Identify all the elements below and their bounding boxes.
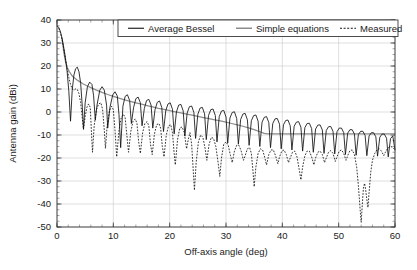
y-tick-label: 30 bbox=[40, 37, 51, 48]
y-tick-label: -30 bbox=[37, 175, 51, 186]
legend-label-average-bessel: Average Bessel bbox=[148, 23, 214, 34]
x-tick-label: 10 bbox=[108, 230, 119, 241]
x-tick-label: 40 bbox=[277, 230, 288, 241]
y-axis-title: Antenna gain (dBi) bbox=[7, 84, 18, 163]
x-axis-title: Off-axis angle (deg) bbox=[184, 246, 267, 257]
legend-label-measured: Measured bbox=[360, 23, 402, 34]
x-tick-label: 50 bbox=[333, 230, 344, 241]
x-tick-label: 60 bbox=[390, 230, 401, 241]
y-tick-label: -20 bbox=[37, 152, 51, 163]
y-tick-label: 10 bbox=[40, 83, 51, 94]
x-tick-label: 20 bbox=[164, 230, 175, 241]
y-tick-label: -50 bbox=[37, 221, 51, 232]
y-tick-label: 0 bbox=[46, 106, 51, 117]
legend-label-simple-equations: Simple equations bbox=[256, 23, 329, 34]
x-tick-label: 0 bbox=[54, 230, 59, 241]
y-tick-label: 20 bbox=[40, 60, 51, 71]
y-tick-label: -10 bbox=[37, 129, 51, 140]
y-tick-label: -40 bbox=[37, 198, 51, 209]
antenna-gain-chart: 0102030405060 403020100-10-20-30-40-50 O… bbox=[0, 0, 417, 270]
chart-figure: 0102030405060 403020100-10-20-30-40-50 O… bbox=[0, 0, 417, 270]
x-tick-label: 30 bbox=[221, 230, 232, 241]
y-tick-label: 40 bbox=[40, 14, 51, 25]
chart-legend: Average BesselSimple equationsMeasured bbox=[118, 20, 402, 37]
